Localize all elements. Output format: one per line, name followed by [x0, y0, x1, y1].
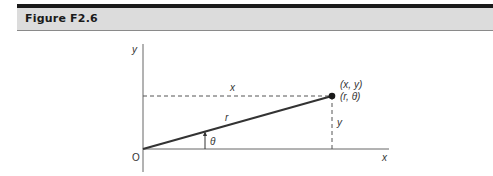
cartesian-coordinates-label: (x, y)	[340, 79, 362, 90]
polar-coordinates-diagram: y x O x y r θ (x, y) (r, θ)	[0, 0, 493, 176]
vertical-distance-label: y	[336, 117, 343, 128]
x-axis-label: x	[381, 152, 388, 163]
origin-label: O	[132, 152, 140, 163]
radius-line	[143, 96, 332, 149]
angle-label: θ	[210, 136, 216, 147]
point-marker	[329, 93, 336, 100]
polar-coordinates-label: (r, θ)	[340, 91, 360, 102]
radius-label: r	[225, 112, 229, 123]
y-axis-label: y	[131, 44, 138, 55]
horizontal-distance-label: x	[229, 82, 236, 93]
